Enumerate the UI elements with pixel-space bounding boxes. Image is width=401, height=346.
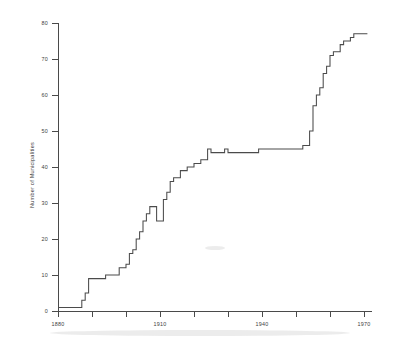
data-series-step-line <box>58 34 367 308</box>
x-tick-label-1910: 1910 <box>154 321 167 327</box>
y-tick-label-30: 30 <box>42 200 49 206</box>
paper-smudge <box>205 246 225 250</box>
y-axis-tick-labels: 0 10 20 30 40 50 60 70 80 <box>42 20 49 314</box>
y-axis-ticks <box>52 23 58 311</box>
y-tick-label-70: 70 <box>42 56 49 62</box>
y-axis-title: Number of Municipalities <box>29 142 35 208</box>
x-tick-label-1970: 1970 <box>358 321 371 327</box>
y-tick-label-40: 40 <box>42 164 49 170</box>
chart-figure: 0 10 20 30 40 50 60 70 80 <box>0 0 401 346</box>
y-tick-label-50: 50 <box>42 128 49 134</box>
y-tick-label-0: 0 <box>45 308 48 314</box>
chart-screenshot: 0 10 20 30 40 50 60 70 80 <box>0 0 401 346</box>
x-tick-label-1940: 1940 <box>256 321 269 327</box>
y-tick-label-20: 20 <box>42 236 49 242</box>
x-axis-ticks <box>58 311 364 317</box>
x-axis-tick-labels: 1880 1910 1940 1970 <box>52 321 371 327</box>
x-tick-label-1880: 1880 <box>52 321 65 327</box>
step-chart-plot: 0 10 20 30 40 50 60 70 80 <box>0 0 401 346</box>
paper-smudge <box>50 330 350 336</box>
y-tick-label-60: 60 <box>42 92 49 98</box>
y-tick-label-80: 80 <box>42 20 49 26</box>
y-tick-label-10: 10 <box>42 272 49 278</box>
